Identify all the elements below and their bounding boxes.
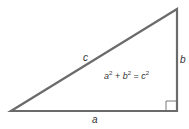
triangle-outline: [11, 9, 177, 111]
vertical-leg-label-b: b: [180, 55, 186, 65]
eq-plus: +: [115, 71, 120, 81]
right-angle-marker: [166, 101, 177, 111]
eq-c-exponent: 2: [146, 70, 149, 76]
triangle-graphic: [0, 0, 189, 129]
horizontal-leg-label-a: a: [92, 115, 98, 125]
pythagorean-equation: a2 + b2 = c2: [104, 70, 149, 81]
eq-b-exponent: 2: [128, 70, 131, 76]
eq-equals: =: [134, 71, 139, 81]
eq-a-exponent: 2: [109, 70, 112, 76]
right-triangle-diagram: c b a a2 + b2 = c2: [0, 0, 189, 129]
hypotenuse-label-c: c: [83, 53, 88, 63]
